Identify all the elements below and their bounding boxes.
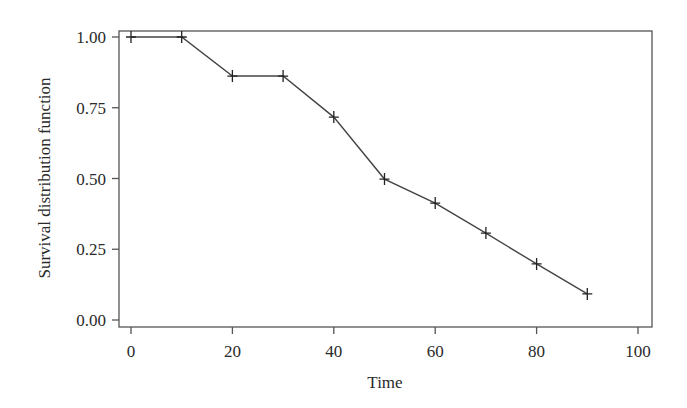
plus-marker-icon <box>582 288 592 300</box>
x-tick-label: 0 <box>127 342 136 361</box>
data-point-markers <box>126 31 592 300</box>
survival-chart: 0.000.250.500.751.00 020406080100 Time S… <box>0 0 687 408</box>
plus-marker-icon <box>177 31 187 43</box>
plus-marker-icon <box>430 197 440 209</box>
y-tick-label: 1.00 <box>76 28 106 47</box>
x-tick-label: 100 <box>625 342 651 361</box>
x-axis-label: Time <box>367 373 402 392</box>
x-tick-label: 40 <box>325 342 342 361</box>
y-axis-label: Survival distribution function <box>35 77 54 279</box>
survival-curve <box>131 37 587 294</box>
x-tick-label: 60 <box>427 342 444 361</box>
plus-marker-icon <box>227 70 237 82</box>
y-axis: 0.000.250.500.751.00 <box>76 28 119 330</box>
y-tick-label: 0.50 <box>76 170 106 189</box>
plus-marker-icon <box>278 70 288 82</box>
y-tick-label: 0.25 <box>76 240 106 259</box>
plus-marker-icon <box>126 31 136 43</box>
y-tick-label: 0.75 <box>76 99 106 118</box>
plus-marker-icon <box>481 227 491 239</box>
plus-marker-icon <box>532 258 542 270</box>
x-tick-label: 80 <box>528 342 545 361</box>
x-axis: 020406080100 <box>127 327 651 361</box>
y-tick-label: 0.00 <box>76 311 106 330</box>
x-tick-label: 20 <box>224 342 241 361</box>
